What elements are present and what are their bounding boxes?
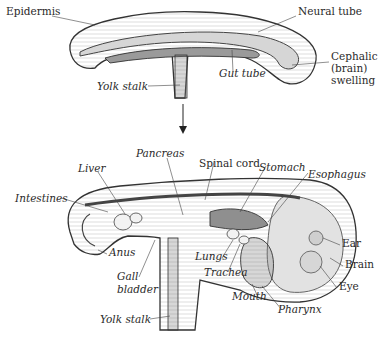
embryo-diagram: Epidermis Neural tube Cephalic (brain) s…: [0, 0, 382, 342]
pharynx-shape: [241, 238, 274, 288]
down-arrow-icon: [179, 104, 187, 134]
label-brain-paren: (brain): [331, 62, 367, 74]
label-gut-tube: Gut tube: [219, 67, 266, 79]
liver-shape: [114, 214, 132, 230]
label-lungs: Lungs: [195, 250, 228, 262]
label-pharynx: Pharynx: [278, 303, 322, 315]
label-esophagus: Esophagus: [308, 168, 366, 180]
label-liver: Liver: [78, 162, 106, 174]
early-embryo: [52, 12, 329, 98]
label-cephalic: Cephalic: [331, 50, 378, 62]
label-neural-tube: Neural tube: [298, 5, 362, 17]
label-mouth: Mouth: [232, 290, 267, 302]
label-trachea: Trachea: [204, 266, 247, 278]
label-spinal-cord: Spinal cord: [199, 157, 260, 169]
eye-shape: [300, 251, 322, 273]
label-bladder: bladder: [117, 283, 158, 295]
label-gall: Gall: [117, 270, 138, 282]
label-pancreas: Pancreas: [136, 147, 184, 159]
label-yolk-stalk-top: Yolk stalk: [97, 80, 148, 92]
label-eye: Eye: [339, 280, 359, 292]
ear-shape: [309, 231, 323, 245]
label-ear: Ear: [342, 237, 361, 249]
label-stomach: Stomach: [259, 161, 306, 173]
label-yolk-stalk-bottom: Yolk stalk: [100, 313, 151, 325]
label-swelling: swelling: [331, 74, 375, 86]
label-intestines: Intestines: [15, 192, 68, 204]
lungs-shape: [227, 229, 239, 239]
label-brain: Brain: [345, 258, 374, 270]
yolk-stalk-top-shape: [175, 55, 187, 98]
label-anus: Anus: [109, 246, 136, 258]
label-epidermis: Epidermis: [6, 5, 60, 17]
